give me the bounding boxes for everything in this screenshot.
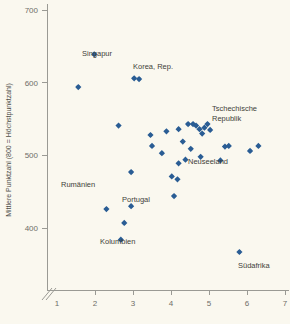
- point-label: Republik: [212, 114, 241, 123]
- x-tick-label: 5: [207, 299, 212, 308]
- point-label: Portugal: [122, 195, 150, 204]
- y-axis-title-text: Mittlere Punktzahl (800 = Höchstpunktzah…: [5, 83, 13, 217]
- point-label: Singapur: [82, 49, 113, 58]
- x-tick-label: 6: [245, 299, 250, 308]
- scatter-plot: 7006005004001234567 Mittlere Punktzahl (…: [0, 0, 290, 324]
- point-label: Neuseeland: [188, 157, 228, 166]
- y-tick-label: 600: [25, 79, 39, 88]
- y-tick-label: 700: [25, 6, 39, 15]
- point-label: Rumänien: [61, 180, 95, 189]
- y-tick-label: 500: [25, 151, 39, 160]
- x-tick-label: 1: [55, 299, 60, 308]
- y-tick-label: 400: [25, 224, 39, 233]
- x-tick-label: 4: [169, 299, 174, 308]
- point-label: Kolumbien: [100, 237, 135, 246]
- point-label: Tschechische: [212, 104, 257, 113]
- point-label: Südafrika: [238, 261, 271, 270]
- point-label: Korea, Rep.: [133, 62, 173, 71]
- x-tick-label: 3: [131, 299, 136, 308]
- plot-background: [0, 0, 290, 324]
- x-tick-label: 2: [93, 299, 98, 308]
- y-axis-title: Mittlere Punktzahl (800 = Höchstpunktzah…: [5, 83, 13, 217]
- x-tick-label: 7: [283, 299, 288, 308]
